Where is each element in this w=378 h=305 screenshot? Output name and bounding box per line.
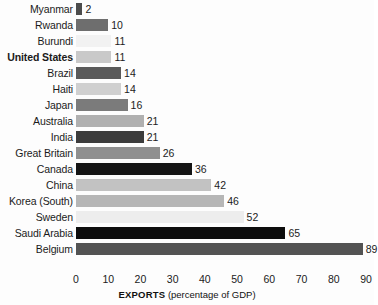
x-axis-tick-label: 20 [128, 272, 152, 287]
bar-value-label: 14 [124, 65, 136, 81]
x-axis-tick-label: 70 [290, 272, 314, 287]
bar [76, 51, 111, 63]
bar-category-label: Korea (South) [0, 193, 73, 209]
x-axis-tick-label: 30 [161, 272, 185, 287]
bar-row: India21 [0, 129, 374, 145]
bar-row: Saudi Arabia65 [0, 225, 374, 241]
bar-value-label: 10 [111, 17, 123, 33]
bar [76, 147, 160, 159]
bar-value-label: 16 [131, 97, 143, 113]
bar-row: Rwanda10 [0, 17, 374, 33]
bar-category-label: Burundi [0, 33, 73, 49]
x-axis-tick-label: 40 [193, 272, 217, 287]
bar-row: Myanmar2 [0, 1, 374, 17]
bar [76, 83, 121, 95]
bar-row: Korea (South)46 [0, 193, 374, 209]
bar-row: Burundi11 [0, 33, 374, 49]
x-axis-tick-label: 10 [96, 272, 120, 287]
bar-value-label: 11 [114, 49, 125, 65]
x-axis-tick-label: 80 [322, 272, 346, 287]
bar-category-label: United States [0, 49, 73, 65]
bar-row: Belgium89 [0, 241, 374, 257]
x-axis-title: EXPORTS (percentage of GDP) [0, 289, 374, 300]
x-axis: 0102030405060708090 [0, 272, 374, 287]
bar [76, 35, 111, 47]
bar-category-label: India [0, 129, 73, 145]
x-axis-tick-label: 90 [354, 272, 378, 287]
bar [76, 163, 192, 175]
bar-row: Japan16 [0, 97, 374, 113]
bar [76, 179, 211, 191]
bar-value-label: 65 [288, 225, 300, 241]
bar-row: Sweden52 [0, 209, 374, 225]
bar [76, 67, 121, 79]
x-axis-tick-label: 60 [257, 272, 281, 287]
bar-value-label: 14 [124, 81, 136, 97]
bar-value-label: 42 [214, 177, 226, 193]
bar [76, 3, 82, 15]
bar-category-label: Great Britain [0, 145, 73, 161]
bar-category-label: Myanmar [0, 1, 73, 17]
bar-value-label: 11 [114, 33, 125, 49]
bar-category-label: Australia [0, 113, 73, 129]
bar-value-label: 21 [147, 113, 159, 129]
bar [76, 115, 144, 127]
bar-category-label: Belgium [0, 241, 73, 257]
bar-category-label: Japan [0, 97, 73, 113]
bar-value-label: 2 [85, 1, 91, 17]
bar-category-label: China [0, 177, 73, 193]
bar-row: United States11 [0, 49, 374, 65]
bar-value-label: 36 [195, 161, 207, 177]
bar-row: China42 [0, 177, 374, 193]
bar-row: Brazil14 [0, 65, 374, 81]
bar-value-label: 46 [227, 193, 239, 209]
bar-row: Canada36 [0, 161, 374, 177]
bar-category-label: Rwanda [0, 17, 73, 33]
bar-value-label: 21 [147, 129, 159, 145]
bar [76, 19, 108, 31]
plot-area: Myanmar2Rwanda10Burundi11United States11… [0, 0, 374, 272]
bar-value-label: 89 [366, 241, 378, 257]
bar-category-label: Saudi Arabia [0, 225, 73, 241]
bar [76, 227, 285, 239]
bar-value-label: 26 [163, 145, 175, 161]
bar-row: Australia21 [0, 113, 374, 129]
bar-category-label: Haiti [0, 81, 73, 97]
bar [76, 195, 224, 207]
bar [76, 211, 244, 223]
x-axis-title-strong: EXPORTS [118, 289, 165, 300]
bar-row: Haiti14 [0, 81, 374, 97]
x-axis-tick-label: 50 [225, 272, 249, 287]
bar-value-label: 52 [247, 209, 259, 225]
bar [76, 99, 128, 111]
x-axis-title-light: (percentage of GDP) [168, 289, 256, 300]
x-axis-tick-label: 0 [64, 272, 88, 287]
bar [76, 243, 363, 255]
bar-row: Great Britain26 [0, 145, 374, 161]
bar-category-label: Brazil [0, 65, 73, 81]
bar-category-label: Canada [0, 161, 73, 177]
bar-category-label: Sweden [0, 209, 73, 225]
bar [76, 131, 144, 143]
